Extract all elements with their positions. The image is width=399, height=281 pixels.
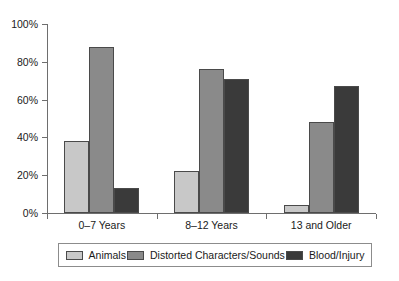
x-tick-mark	[266, 214, 267, 219]
x-tick-mark	[376, 214, 377, 219]
category-label: 13 and Older	[266, 220, 376, 231]
bar	[64, 141, 89, 213]
legend-item: Distorted Characters/Sounds	[127, 250, 285, 261]
grouped-bar-chart: 0%20%40%60%80%100% 0–7 Years8–12 Years13…	[0, 0, 399, 281]
y-tick-label: 40%	[0, 132, 38, 142]
x-axis-line	[47, 213, 376, 214]
chart-legend: AnimalsDistorted Characters/SoundsBlood/…	[58, 243, 372, 267]
y-tick-label: 0%	[0, 208, 38, 218]
bar	[284, 205, 309, 213]
bar	[224, 79, 249, 213]
bar	[114, 188, 139, 213]
legend-label: Distorted Characters/Sounds	[150, 250, 285, 261]
legend-swatch-icon	[286, 251, 303, 260]
y-tick-label: 80%	[0, 57, 38, 67]
legend-label: Blood/Injury	[309, 250, 364, 261]
y-tick-label: 20%	[0, 170, 38, 180]
bar	[174, 171, 199, 213]
x-tick-mark	[47, 214, 48, 219]
bar	[309, 122, 334, 213]
y-tick-label: 100%	[0, 19, 38, 29]
category-label: 8–12 Years	[157, 220, 267, 231]
plot-area: 0%20%40%60%80%100% 0–7 Years8–12 Years13…	[0, 0, 399, 232]
bar	[89, 47, 114, 213]
category-label: 0–7 Years	[47, 220, 157, 231]
bars-layer	[47, 24, 376, 213]
legend-swatch-icon	[127, 251, 144, 260]
bar	[199, 69, 224, 213]
legend-item: Animals	[66, 250, 126, 261]
legend-item: Blood/Injury	[286, 250, 364, 261]
legend-label: Animals	[89, 250, 126, 261]
legend-swatch-icon	[66, 251, 83, 260]
y-tick-label: 60%	[0, 95, 38, 105]
bar	[334, 86, 359, 213]
x-tick-mark	[157, 214, 158, 219]
